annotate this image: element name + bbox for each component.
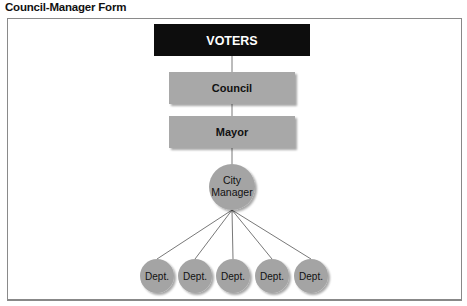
department-node: Dept. xyxy=(294,259,328,293)
voters-label: VOTERS xyxy=(206,34,257,48)
city-manager-node: City Manager xyxy=(209,164,255,210)
mayor-label: Mayor xyxy=(216,126,249,138)
council-label: Council xyxy=(212,82,252,94)
department-label: Dept. xyxy=(145,271,169,282)
org-chart: VOTERS Council Mayor City Manager Dept. … xyxy=(0,0,467,306)
voters-node: VOTERS xyxy=(154,24,310,56)
department-label: Dept. xyxy=(221,271,245,282)
department-label: Dept. xyxy=(299,271,323,282)
department-node: Dept. xyxy=(178,259,212,293)
department-node: Dept. xyxy=(216,259,250,293)
department-node: Dept. xyxy=(255,259,289,293)
city-manager-label-line2: Manager xyxy=(211,186,253,198)
mayor-node: Mayor xyxy=(169,116,295,148)
city-manager-label-line1: City xyxy=(223,174,242,186)
department-label: Dept. xyxy=(183,271,207,282)
department-node: Dept. xyxy=(140,259,174,293)
department-label: Dept. xyxy=(260,271,284,282)
department-nodes: Dept. Dept. Dept. Dept. Dept. xyxy=(140,259,328,293)
council-node: Council xyxy=(169,72,295,104)
